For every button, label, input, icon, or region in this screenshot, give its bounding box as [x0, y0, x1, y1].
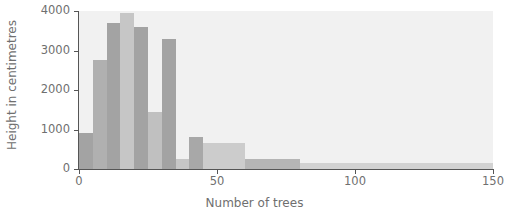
histogram-bar	[272, 159, 286, 169]
plot-area	[79, 11, 493, 169]
y-tick-label: 0	[63, 163, 70, 175]
histogram-bar	[134, 27, 148, 169]
histogram-bar	[203, 143, 217, 169]
y-tick-mark	[74, 130, 78, 131]
histogram-bar	[189, 137, 203, 169]
histogram-bar	[231, 143, 245, 169]
x-tick-label: 150	[482, 176, 504, 188]
y-tick-mark	[74, 90, 78, 91]
x-tick-label: 100	[344, 176, 366, 188]
histogram-bar	[245, 159, 259, 169]
y-tick-label: 4000	[41, 5, 70, 17]
y-tick-mark	[74, 11, 78, 12]
histogram-bar	[107, 23, 121, 169]
histogram-bar	[162, 39, 176, 169]
histogram-bar	[120, 13, 134, 169]
y-tick-mark	[74, 169, 78, 170]
y-tick-label: 1000	[41, 124, 70, 136]
x-tick-label: 0	[75, 176, 82, 188]
x-tick-label: 50	[210, 176, 225, 188]
y-tick-label: 2000	[41, 84, 70, 96]
y-axis-line	[78, 11, 79, 170]
histogram-bar	[217, 143, 231, 169]
histogram-figure: 01000200030004000050100150 Number of tre…	[0, 0, 509, 222]
histogram-bar	[176, 159, 190, 169]
histogram-bar	[79, 133, 93, 169]
x-axis-line	[78, 169, 494, 170]
histogram-bar	[258, 159, 272, 169]
y-tick-label: 3000	[41, 45, 70, 57]
histogram-bar	[148, 112, 162, 169]
y-axis-label: Height in centimetres	[5, 5, 19, 165]
histogram-bar	[93, 60, 107, 169]
y-axis-label-wrapper: Height in centimetres	[0, 0, 22, 180]
x-axis-label: Number of trees	[0, 196, 509, 210]
y-tick-mark	[74, 51, 78, 52]
histogram-bar	[286, 159, 300, 169]
